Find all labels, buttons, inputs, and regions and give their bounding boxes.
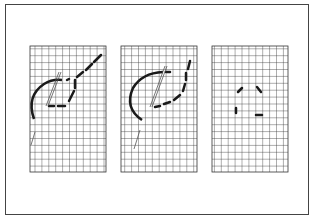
panel-step-1	[30, 46, 106, 172]
panel-step-2	[121, 46, 197, 172]
stitch-diagram	[0, 0, 317, 223]
grid-canvas	[212, 46, 288, 172]
grid-canvas	[30, 46, 106, 172]
panel-step-3	[212, 46, 288, 172]
